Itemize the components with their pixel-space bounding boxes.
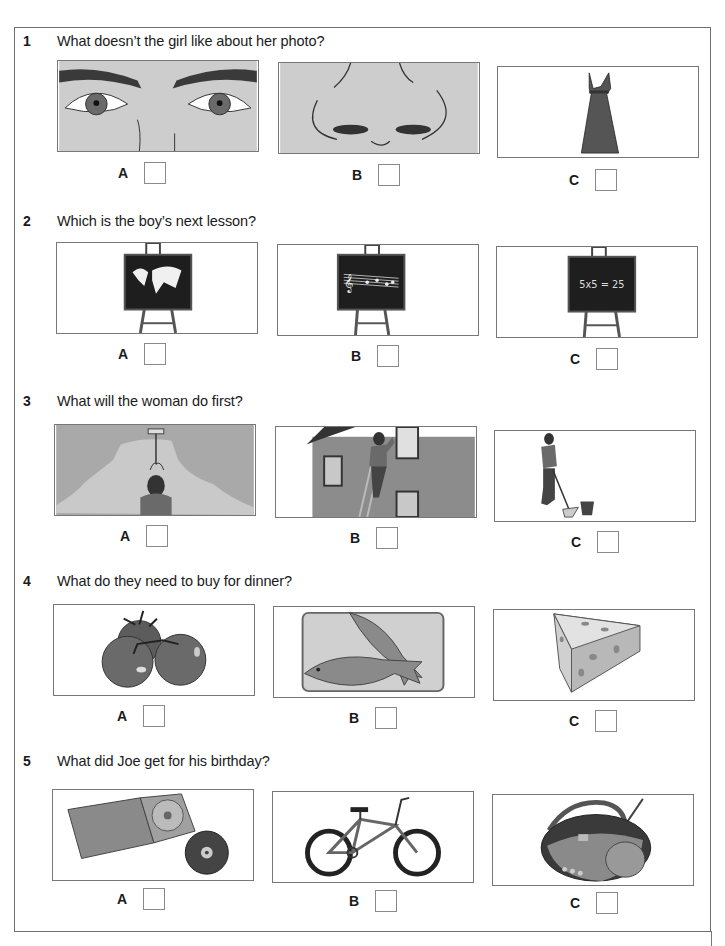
- option-a-image-world-map-blackboard[interactable]: [56, 242, 258, 334]
- option-letter: C: [570, 351, 596, 367]
- nose-icon: [279, 63, 479, 153]
- answer-checkbox-1b[interactable]: [378, 164, 400, 186]
- question-number: 4: [23, 573, 31, 589]
- option-c-image-dress[interactable]: [497, 66, 699, 158]
- option-b: B: [349, 889, 397, 913]
- option-letter: B: [351, 348, 377, 364]
- cd-icon: [53, 790, 253, 880]
- option-letter: C: [571, 534, 597, 550]
- option-c: C: [571, 530, 619, 554]
- eyes-icon: [58, 61, 258, 151]
- option-a-image-painting[interactable]: [54, 424, 256, 516]
- answer-checkbox-1a[interactable]: [144, 162, 166, 184]
- mopping-icon: [495, 431, 695, 521]
- answer-checkbox-4b[interactable]: [375, 707, 397, 729]
- question-5: 5 What did Joe get for his birthday? A B: [0, 753, 725, 933]
- option-letter: C: [569, 172, 595, 188]
- option-letter: A: [120, 528, 146, 544]
- answer-checkbox-2b[interactable]: [377, 345, 399, 367]
- answer-checkbox-3b[interactable]: [376, 527, 398, 549]
- question-number: 2: [23, 213, 31, 229]
- option-a: A: [118, 161, 166, 185]
- window-cleaning-icon: [276, 427, 476, 517]
- answer-checkbox-1c[interactable]: [595, 169, 617, 191]
- option-b-image-bicycle[interactable]: [272, 791, 474, 883]
- answer-checkbox-3c[interactable]: [597, 531, 619, 553]
- option-b: B: [349, 706, 397, 730]
- option-b-image-fish[interactable]: [273, 606, 475, 698]
- question-text: Which is the boy’s next lesson?: [57, 213, 256, 229]
- option-c-image-cd-player[interactable]: [492, 794, 694, 886]
- answer-checkbox-2c[interactable]: [596, 348, 618, 370]
- option-b-image-nose[interactable]: [278, 62, 480, 154]
- option-c-image-mopping[interactable]: [494, 430, 696, 522]
- option-a-image-cd[interactable]: [52, 789, 254, 881]
- blackboard-maths-icon: 5x5 = 25: [497, 247, 697, 337]
- painting-wall-icon: [55, 425, 255, 515]
- answer-checkbox-2a[interactable]: [144, 343, 166, 365]
- option-c-image-maths-blackboard[interactable]: 5x5 = 25: [496, 246, 698, 338]
- tomatoes-icon: [54, 605, 254, 695]
- option-letter: C: [570, 895, 596, 911]
- option-b: B: [350, 526, 398, 550]
- page-edge-tick: [711, 931, 712, 946]
- question-text: What did Joe get for his birthday?: [57, 753, 270, 769]
- question-number: 3: [23, 393, 31, 409]
- svg-text:5x5 = 25: 5x5 = 25: [579, 279, 624, 290]
- question-number: 1: [23, 33, 31, 49]
- cheese-icon: [494, 610, 694, 700]
- answer-checkbox-5b[interactable]: [375, 890, 397, 912]
- option-a-image-tomatoes[interactable]: [53, 604, 255, 696]
- blackboard-map-icon: [57, 243, 257, 333]
- option-c: C: [570, 891, 618, 915]
- option-letter: A: [117, 708, 143, 724]
- cd-player-radio-icon: [493, 795, 693, 885]
- option-letter: B: [349, 893, 375, 909]
- option-c: C: [570, 347, 618, 371]
- option-c: C: [569, 168, 617, 192]
- option-c-image-cheese[interactable]: [493, 609, 695, 701]
- question-text: What will the woman do first?: [57, 393, 243, 409]
- option-b: B: [351, 344, 399, 368]
- question-4: 4 What do they need to buy for dinner? A…: [0, 573, 725, 753]
- option-letter: B: [350, 530, 376, 546]
- option-letter: A: [117, 891, 143, 907]
- option-a-image-eyes[interactable]: [57, 60, 259, 152]
- question-1: 1 What doesn’t the girl like about her p…: [0, 33, 725, 213]
- option-a: A: [120, 524, 168, 548]
- svg-text:𝄞: 𝄞: [344, 273, 353, 293]
- dress-icon: [498, 67, 698, 157]
- answer-checkbox-3a[interactable]: [146, 525, 168, 547]
- question-3: 3 What will the woman do first? A: [0, 393, 725, 573]
- answer-checkbox-4a[interactable]: [143, 705, 165, 727]
- question-text: What doesn’t the girl like about her pho…: [57, 33, 324, 49]
- question-text: What do they need to buy for dinner?: [57, 573, 292, 589]
- option-a: A: [117, 704, 165, 728]
- bicycle-icon: [273, 792, 473, 882]
- answer-checkbox-5c[interactable]: [596, 892, 618, 914]
- fish-icon: [274, 607, 474, 697]
- question-number: 5: [23, 753, 31, 769]
- option-a: A: [117, 887, 165, 911]
- option-b-image-music-blackboard[interactable]: 𝄞: [277, 244, 479, 336]
- blackboard-music-icon: 𝄞: [278, 245, 478, 335]
- option-letter: B: [349, 710, 375, 726]
- option-c: C: [569, 709, 617, 733]
- option-b-image-window-cleaning[interactable]: [275, 426, 477, 518]
- option-letter: B: [352, 167, 378, 183]
- option-letter: C: [569, 713, 595, 729]
- option-b: B: [352, 163, 400, 187]
- answer-checkbox-4c[interactable]: [595, 710, 617, 732]
- answer-checkbox-5a[interactable]: [143, 888, 165, 910]
- question-2: 2 Which is the boy’s next lesson? A 𝄞: [0, 213, 725, 393]
- option-a: A: [118, 342, 166, 366]
- option-letter: A: [118, 165, 144, 181]
- option-letter: A: [118, 346, 144, 362]
